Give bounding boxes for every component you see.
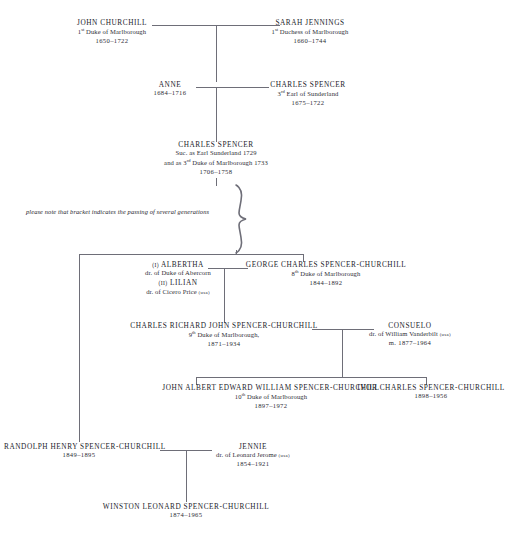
marriage-line-gen9 — [312, 329, 374, 330]
generation-skip-brace — [228, 184, 254, 254]
person-years: 1874–1965 — [76, 511, 296, 520]
person-years: 1684–1716 — [115, 89, 225, 98]
person-winston-leonard-spencer-churchill: Winston Leonard Spencer-Churchill 1874–1… — [76, 502, 296, 520]
marriage-line-gen8 — [208, 268, 248, 269]
person-anne: Anne 1684–1716 — [115, 80, 225, 98]
person-george-charles-spencer-churchill: George Charles Spencer-Churchill 8th Duk… — [232, 260, 420, 288]
person-years: 1854–1921 — [185, 460, 321, 469]
person-jennie: Jennie dr. of Leonard Jerome (usa) 1854–… — [185, 442, 321, 469]
person-succession-line-1: Suc. as Earl Sunderland 1729 — [126, 149, 306, 158]
person-description: dr. of Leonard Jerome (usa) — [185, 451, 321, 460]
generations-note: please note that bracket indicates the p… — [26, 208, 209, 215]
person-title: 8th Duke of Marlborough — [232, 269, 420, 279]
person-years: 1871–1934 — [118, 340, 330, 349]
family-tree-diagram: John Churchill 1st Duke of Marlborough 1… — [0, 0, 525, 549]
descent-line-gen9 — [342, 329, 343, 377]
person-description: dr. of William Vanderbilt (usa) — [330, 330, 490, 339]
person-years: 1849–1895 — [4, 451, 154, 460]
person-years: 1660–1744 — [211, 37, 409, 46]
person-name: John Churchill — [13, 18, 211, 27]
descent-line-gen1 — [216, 25, 217, 82]
person-randolph-henry-spencer-churchill: Randolph Henry Spencer-Churchill 1849–18… — [4, 442, 154, 460]
wife-2-name: (ii) Lilian — [110, 278, 246, 287]
person-name: Randolph Henry Spencer-Churchill — [4, 442, 154, 451]
person-title: 1st Duchess of Marlborough — [211, 27, 409, 37]
sibling-bar-gen10 — [196, 377, 426, 378]
person-name: George Charles Spencer-Churchill — [232, 260, 420, 269]
person-years: 1897–1972 — [150, 402, 392, 411]
person-years: 1675–1722 — [228, 99, 388, 108]
person-albertha-lilian: (i) Albertha dr. of Duke of Abercorn (ii… — [110, 260, 246, 296]
descent-line-gen8 — [224, 268, 225, 323]
person-ivor-charles-spencer-churchill: Ivor Charles Spencer-Churchill 1898–1956 — [356, 383, 506, 401]
person-succession-line-2: and as 3rd Duke of Marlborough 1733 — [126, 158, 306, 168]
person-title: 3rd Earl of Sunderland — [228, 89, 388, 99]
person-years: 1706–1758 — [126, 168, 306, 177]
person-name: Charles Spencer — [126, 140, 306, 149]
person-sarah-jennings: Sarah Jennings 1st Duchess of Marlboroug… — [211, 18, 409, 46]
person-years: 1898–1956 — [356, 392, 506, 401]
person-title: 1st Duke of Marlborough — [13, 27, 211, 37]
person-name: Winston Leonard Spencer-Churchill — [76, 502, 296, 511]
person-years: m. 1877–1964 — [330, 339, 490, 348]
person-years: 1844–1892 — [232, 279, 420, 288]
wife-2-description: dr. of Cicero Price (usa) — [110, 288, 246, 297]
person-name: Charles Spencer — [228, 80, 388, 89]
person-name: Anne — [115, 80, 225, 89]
person-charles-spencer-3rd-duke: Charles Spencer Suc. as Earl Sunderland … — [126, 140, 306, 176]
descent-line-gen2 — [216, 87, 217, 142]
person-name: Sarah Jennings — [211, 18, 409, 27]
person-charles-spencer-3rd-earl: Charles Spencer 3rd Earl of Sunderland 1… — [228, 80, 388, 108]
person-charles-richard-john-spencer-churchill: Charles Richard John Spencer-Churchill 9… — [118, 321, 330, 349]
person-name: Ivor Charles Spencer-Churchill — [356, 383, 506, 392]
descent-line-gen3 — [216, 178, 217, 186]
person-title: 9th Duke of Marlborough, — [118, 330, 330, 340]
wife-1-description: dr. of Duke of Abercorn — [110, 269, 246, 278]
person-name: Charles Richard John Spencer-Churchill — [118, 321, 330, 330]
person-john-churchill: John Churchill 1st Duke of Marlborough 1… — [13, 18, 211, 46]
person-years: 1650–1722 — [13, 37, 211, 46]
descent-line-winston — [186, 450, 187, 502]
brace-icon — [228, 184, 254, 254]
person-consuelo: Consuelo dr. of William Vanderbilt (usa)… — [330, 321, 490, 348]
marriage-line-gen2 — [196, 87, 269, 88]
left-spine-line — [79, 254, 80, 442]
sibling-bar-gen8 — [79, 254, 303, 255]
